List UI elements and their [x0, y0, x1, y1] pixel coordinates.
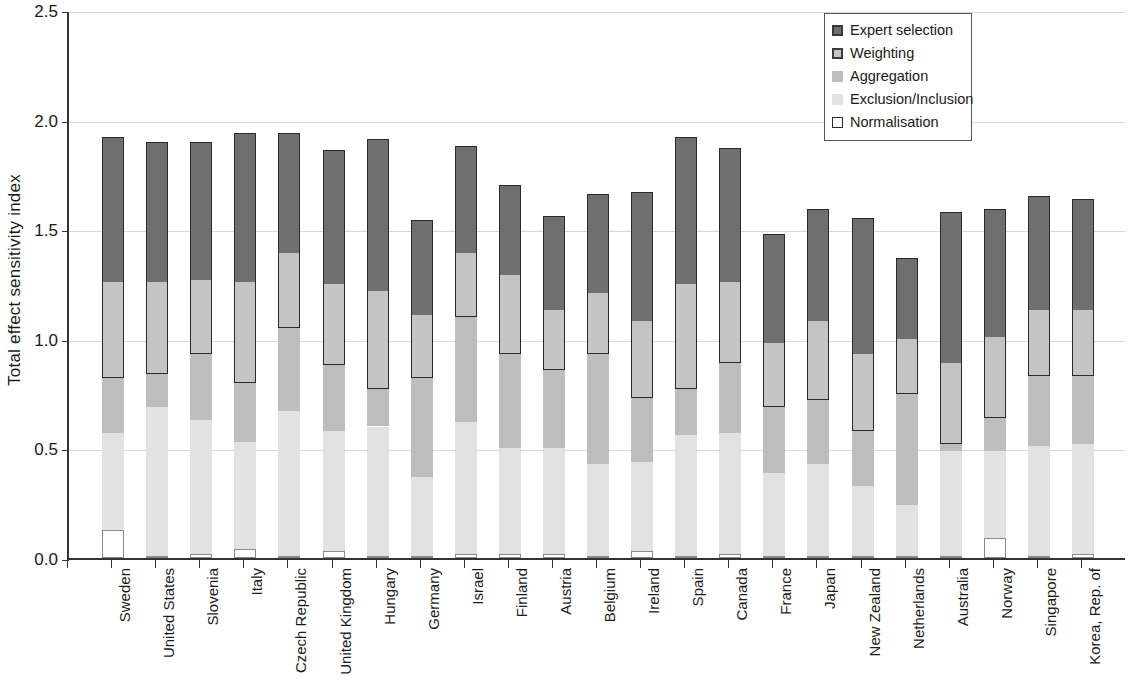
bar-segment-weighting[interactable] — [102, 282, 124, 378]
bar-group[interactable] — [234, 10, 256, 558]
bar-segment-normalisation[interactable] — [1072, 554, 1094, 558]
bar-group[interactable] — [411, 10, 433, 558]
bar-segment-exclusion-inclusion[interactable] — [631, 462, 653, 552]
bar-group[interactable] — [190, 10, 212, 558]
bar-segment-exclusion-inclusion[interactable] — [675, 435, 697, 556]
bar-segment-expert-selection[interactable] — [940, 212, 962, 363]
bar-segment-normalisation[interactable] — [896, 556, 918, 558]
bar-segment-weighting[interactable] — [896, 339, 918, 394]
bar-segment-normalisation[interactable] — [146, 556, 168, 558]
bar-segment-aggregation[interactable] — [367, 389, 389, 426]
bar-segment-aggregation[interactable] — [984, 418, 1006, 451]
bar-segment-expert-selection[interactable] — [1072, 199, 1094, 311]
bar-segment-weighting[interactable] — [675, 284, 697, 389]
legend-item-exclusion[interactable]: Exclusion/Inclusion — [832, 88, 965, 111]
legend-item-normalisation[interactable]: Normalisation — [832, 111, 965, 134]
bar-segment-expert-selection[interactable] — [102, 137, 124, 282]
legend-item-weighting[interactable]: Weighting — [832, 42, 965, 65]
bar-segment-expert-selection[interactable] — [146, 142, 168, 282]
bar-segment-aggregation[interactable] — [411, 378, 433, 477]
bar-segment-normalisation[interactable] — [543, 554, 565, 558]
bar-segment-aggregation[interactable] — [1072, 376, 1094, 444]
bar-segment-weighting[interactable] — [587, 293, 609, 354]
bar-segment-weighting[interactable] — [278, 253, 300, 328]
bar-segment-normalisation[interactable] — [190, 554, 212, 558]
bar-segment-normalisation[interactable] — [587, 556, 609, 558]
bar-segment-expert-selection[interactable] — [807, 209, 829, 321]
bar-segment-weighting[interactable] — [940, 363, 962, 444]
bar-segment-aggregation[interactable] — [146, 374, 168, 407]
bar-segment-exclusion-inclusion[interactable] — [763, 473, 785, 556]
bar-segment-normalisation[interactable] — [323, 551, 345, 558]
bar-segment-exclusion-inclusion[interactable] — [1072, 444, 1094, 554]
bar-segment-weighting[interactable] — [807, 321, 829, 400]
bar-segment-normalisation[interactable] — [499, 554, 521, 558]
bar-segment-weighting[interactable] — [146, 282, 168, 374]
bar-segment-expert-selection[interactable] — [234, 133, 256, 282]
bar-segment-weighting[interactable] — [455, 253, 477, 317]
bar-segment-exclusion-inclusion[interactable] — [146, 407, 168, 556]
bar-segment-weighting[interactable] — [852, 354, 874, 431]
bar-segment-exclusion-inclusion[interactable] — [190, 420, 212, 554]
bar-segment-aggregation[interactable] — [940, 444, 962, 451]
bar-segment-normalisation[interactable] — [763, 556, 785, 558]
bar-segment-normalisation[interactable] — [852, 556, 874, 558]
bar-segment-exclusion-inclusion[interactable] — [455, 422, 477, 554]
bar-segment-exclusion-inclusion[interactable] — [896, 505, 918, 555]
bar-segment-normalisation[interactable] — [940, 556, 962, 558]
bar-segment-exclusion-inclusion[interactable] — [278, 411, 300, 556]
bar-segment-exclusion-inclusion[interactable] — [499, 448, 521, 553]
bar-segment-aggregation[interactable] — [807, 400, 829, 464]
bar-segment-weighting[interactable] — [719, 282, 741, 363]
bar-group[interactable] — [323, 10, 345, 558]
bar-group[interactable] — [278, 10, 300, 558]
bar-segment-normalisation[interactable] — [719, 554, 741, 558]
bar-segment-exclusion-inclusion[interactable] — [940, 451, 962, 556]
bar-segment-expert-selection[interactable] — [984, 209, 1006, 336]
bar-segment-aggregation[interactable] — [587, 354, 609, 464]
bar-segment-normalisation[interactable] — [411, 556, 433, 558]
bar-segment-normalisation[interactable] — [367, 556, 389, 558]
bar-segment-exclusion-inclusion[interactable] — [411, 477, 433, 556]
bar-segment-exclusion-inclusion[interactable] — [852, 486, 874, 556]
bar-group[interactable] — [1072, 10, 1094, 558]
bar-segment-weighting[interactable] — [1028, 310, 1050, 376]
bar-group[interactable] — [984, 10, 1006, 558]
bar-group[interactable] — [102, 10, 124, 558]
bar-group[interactable] — [631, 10, 653, 558]
bar-group[interactable] — [1028, 10, 1050, 558]
bar-segment-aggregation[interactable] — [631, 398, 653, 462]
bar-group[interactable] — [763, 10, 785, 558]
bar-segment-weighting[interactable] — [367, 291, 389, 390]
bar-segment-weighting[interactable] — [411, 315, 433, 379]
bar-segment-exclusion-inclusion[interactable] — [984, 451, 1006, 539]
bar-segment-aggregation[interactable] — [543, 370, 565, 449]
bar-group[interactable] — [543, 10, 565, 558]
bar-segment-normalisation[interactable] — [675, 556, 697, 558]
bar-segment-expert-selection[interactable] — [543, 216, 565, 310]
bar-segment-exclusion-inclusion[interactable] — [1028, 446, 1050, 556]
bar-segment-expert-selection[interactable] — [631, 192, 653, 321]
bar-segment-exclusion-inclusion[interactable] — [807, 464, 829, 556]
bar-segment-expert-selection[interactable] — [455, 146, 477, 253]
bar-group[interactable] — [499, 10, 521, 558]
bar-segment-normalisation[interactable] — [807, 556, 829, 558]
bar-segment-expert-selection[interactable] — [278, 133, 300, 254]
bar-group[interactable] — [367, 10, 389, 558]
bar-segment-weighting[interactable] — [1072, 310, 1094, 376]
bar-segment-exclusion-inclusion[interactable] — [367, 427, 389, 556]
bar-segment-aggregation[interactable] — [190, 354, 212, 420]
bar-group[interactable] — [719, 10, 741, 558]
bar-segment-expert-selection[interactable] — [367, 139, 389, 290]
bar-group[interactable] — [587, 10, 609, 558]
bar-group[interactable] — [675, 10, 697, 558]
bar-segment-weighting[interactable] — [190, 280, 212, 355]
bar-segment-aggregation[interactable] — [323, 365, 345, 431]
bar-segment-weighting[interactable] — [234, 282, 256, 383]
bar-segment-normalisation[interactable] — [984, 538, 1006, 558]
bar-segment-exclusion-inclusion[interactable] — [102, 433, 124, 529]
bar-segment-weighting[interactable] — [323, 284, 345, 365]
bar-segment-normalisation[interactable] — [631, 551, 653, 558]
bar-segment-exclusion-inclusion[interactable] — [323, 431, 345, 552]
bar-segment-expert-selection[interactable] — [896, 258, 918, 339]
